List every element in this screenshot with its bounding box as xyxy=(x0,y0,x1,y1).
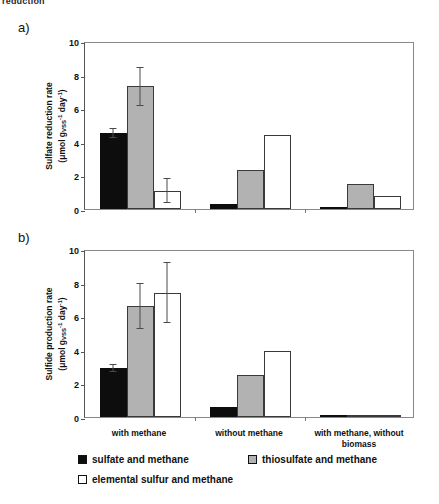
bar-group xyxy=(305,251,415,417)
error-bar xyxy=(113,128,114,138)
error-bar xyxy=(140,67,141,106)
chart-legend: sulfate and methanethiosulfate and metha… xyxy=(0,452,439,502)
bar[interactable] xyxy=(100,133,127,209)
plot-area-b: 1086420 xyxy=(84,250,414,418)
bar-slot xyxy=(264,251,291,417)
bar-slot xyxy=(154,43,181,209)
panel-label-a: a) xyxy=(18,20,30,35)
axis-group-separator xyxy=(195,417,196,421)
chart-panel-b: b) Sulfide production rate (μmol gVSS-1 … xyxy=(0,228,439,428)
bar-container-a xyxy=(85,43,413,209)
y-tick-4: 4 xyxy=(74,347,85,357)
bar-slot xyxy=(374,43,401,209)
bar[interactable] xyxy=(320,207,347,209)
bar[interactable] xyxy=(347,184,374,209)
bar-slot xyxy=(347,251,374,417)
legend-item[interactable]: sulfate and methane xyxy=(78,454,189,465)
bar[interactable] xyxy=(374,415,401,417)
bar-slot xyxy=(237,43,264,209)
bar[interactable] xyxy=(237,375,264,417)
legend-swatch-black xyxy=(78,455,87,464)
bar-slot xyxy=(154,251,181,417)
y-tick-2: 2 xyxy=(74,380,85,390)
y-tick-6: 6 xyxy=(74,313,85,323)
bar-group xyxy=(305,43,415,209)
panel-label-b: b) xyxy=(18,230,30,245)
bar-slot xyxy=(127,251,154,417)
clipped-header-text: reduction xyxy=(2,0,45,4)
bar[interactable] xyxy=(347,415,374,417)
bar[interactable] xyxy=(210,407,237,417)
bar[interactable] xyxy=(100,368,127,417)
bar[interactable] xyxy=(237,170,264,209)
y-tick-0: 0 xyxy=(74,206,85,216)
y-tick-8: 8 xyxy=(74,280,85,290)
bar-slot xyxy=(347,43,374,209)
legend-label: elemental sulfur and methane xyxy=(92,474,233,485)
x-axis-label-3: with methane, without biomass xyxy=(304,428,414,450)
legend-label: sulfate and methane xyxy=(92,454,189,465)
y-axis-title-a-line1: Sulfate reduction rate xyxy=(44,82,54,169)
legend-swatch-gray xyxy=(248,455,257,464)
error-bar xyxy=(140,283,141,328)
y-tick-8: 8 xyxy=(74,72,85,82)
axis-group-separator xyxy=(305,417,306,421)
bar-slot xyxy=(100,43,127,209)
y-tick-2: 2 xyxy=(74,172,85,182)
bar-group xyxy=(85,43,195,209)
y-axis-title-a: Sulfate reduction rate (μmol gVSS-1 day-… xyxy=(44,42,70,210)
bar-slot xyxy=(237,251,264,417)
y-tick-0: 0 xyxy=(74,414,85,424)
bar-container-b xyxy=(85,251,413,417)
bar-group xyxy=(85,251,195,417)
y-tick-10: 10 xyxy=(69,38,85,48)
bar[interactable] xyxy=(264,351,291,417)
x-axis-label-1: with methane xyxy=(84,428,194,439)
y-tick-10: 10 xyxy=(69,246,85,256)
legend-label: thiosulfate and methane xyxy=(262,454,377,465)
error-bar xyxy=(167,178,168,203)
bar-slot xyxy=(374,251,401,417)
axis-group-separator xyxy=(195,209,196,213)
bar-group xyxy=(195,251,305,417)
bar[interactable] xyxy=(374,196,401,209)
bar-slot xyxy=(100,251,127,417)
bar-slot xyxy=(264,43,291,209)
bar[interactable] xyxy=(264,135,291,209)
y-axis-title-b-line1: Sulfide production rate xyxy=(44,287,54,380)
bar[interactable] xyxy=(210,204,237,209)
plot-area-a: 1086420 xyxy=(84,42,414,210)
legend-item[interactable]: elemental sulfur and methane xyxy=(78,474,233,485)
legend-item[interactable]: thiosulfate and methane xyxy=(248,454,377,465)
x-axis-label-2: without methane xyxy=(194,428,304,439)
bar-slot xyxy=(210,43,237,209)
y-tick-4: 4 xyxy=(74,139,85,149)
bar-slot xyxy=(127,43,154,209)
y-tick-6: 6 xyxy=(74,105,85,115)
axis-group-separator xyxy=(305,209,306,213)
bar[interactable] xyxy=(320,415,347,417)
y-axis-title-b: Sulfide production rate (μmol gVSS-1 day… xyxy=(44,250,70,418)
bar-group xyxy=(195,43,305,209)
error-bar xyxy=(167,262,168,322)
bar-slot xyxy=(320,43,347,209)
error-bar xyxy=(113,364,114,372)
chart-panel-a: a) Sulfate reduction rate (μmol gVSS-1 d… xyxy=(0,18,439,230)
bar-slot xyxy=(210,251,237,417)
bar-slot xyxy=(320,251,347,417)
legend-swatch-white xyxy=(78,475,87,484)
